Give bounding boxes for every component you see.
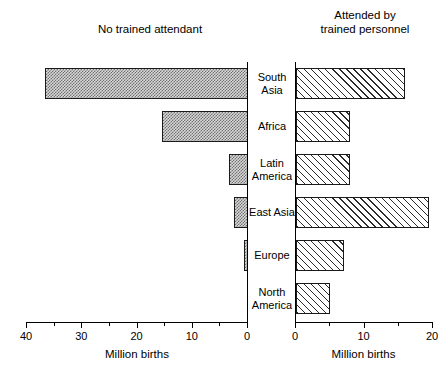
left-axis-tick-10 xyxy=(192,322,193,328)
left-axis-tick-40 xyxy=(26,322,27,328)
right-axis-minor-tick-5 xyxy=(329,322,330,326)
right-bar-row xyxy=(296,234,432,277)
bar-no-trained-attendant xyxy=(45,68,248,99)
right-value-axis-line xyxy=(295,62,296,322)
left-axis-tick-label-0: 0 xyxy=(232,330,262,342)
right-panel-title: Attended by trained personnel xyxy=(300,8,430,36)
left-panel-title: No trained attendant xyxy=(60,22,240,36)
right-axis-tick-0 xyxy=(295,322,296,328)
bar-attended-by-trained-personnel xyxy=(296,154,350,185)
right-axis-tick-label-0: 0 xyxy=(280,330,310,342)
category-label-column: South AsiaAfricaLatin AmericaEast AsiaEu… xyxy=(249,62,295,320)
right-axis-caption: Million births xyxy=(295,348,432,360)
left-axis-minor-tick-5 xyxy=(219,322,220,326)
left-bar-row xyxy=(26,105,248,148)
left-bar-row xyxy=(26,148,248,191)
category-label: East Asia xyxy=(249,191,295,234)
right-axis-tick-label-20: 20 xyxy=(417,330,443,342)
left-bar-row xyxy=(26,277,248,320)
left-axis-minor-tick-25 xyxy=(109,322,110,326)
left-axis-tick-30 xyxy=(81,322,82,328)
category-label: North America xyxy=(249,277,295,320)
category-label: Europe xyxy=(249,234,295,277)
left-axis-caption: Million births xyxy=(26,348,248,360)
category-label: Africa xyxy=(249,105,295,148)
bar-attended-by-trained-personnel xyxy=(296,240,344,271)
category-label: South Asia xyxy=(249,62,295,105)
left-plot-area xyxy=(26,62,248,320)
bar-no-trained-attendant xyxy=(229,154,248,185)
left-axis-tick-20 xyxy=(137,322,138,328)
right-axis-minor-tick-15 xyxy=(398,322,399,326)
right-bar-row xyxy=(296,105,432,148)
bar-attended-by-trained-personnel xyxy=(296,111,350,142)
right-plot-area xyxy=(296,62,432,320)
bar-attended-by-trained-personnel xyxy=(296,283,330,314)
right-bar-row xyxy=(296,148,432,191)
left-bar-row xyxy=(26,62,248,105)
bar-no-trained-attendant xyxy=(234,197,248,228)
left-axis-tick-label-10: 10 xyxy=(177,330,207,342)
right-axis-tick-20 xyxy=(432,322,433,328)
left-axis-tick-label-20: 20 xyxy=(122,330,152,342)
right-bar-row xyxy=(296,277,432,320)
bar-attended-by-trained-personnel xyxy=(296,68,405,99)
left-axis-tick-label-40: 40 xyxy=(11,330,41,342)
bar-no-trained-attendant xyxy=(162,111,248,142)
left-axis-minor-tick-35 xyxy=(54,322,55,326)
left-bar-row xyxy=(26,191,248,234)
left-value-axis-line xyxy=(247,62,248,322)
left-axis-tick-label-30: 30 xyxy=(66,330,96,342)
right-axis-tick-label-10: 10 xyxy=(349,330,379,342)
right-bar-row xyxy=(296,62,432,105)
right-bar-row xyxy=(296,191,432,234)
left-axis-minor-tick-15 xyxy=(164,322,165,326)
left-bar-row xyxy=(26,234,248,277)
bar-attended-by-trained-personnel xyxy=(296,197,429,228)
right-axis-tick-10 xyxy=(364,322,365,328)
category-label: Latin America xyxy=(249,148,295,191)
left-axis-tick-0 xyxy=(247,322,248,328)
